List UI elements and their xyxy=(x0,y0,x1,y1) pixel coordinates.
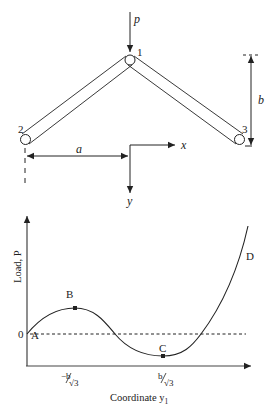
node-3 xyxy=(235,135,245,145)
x-tick-neg-denominator: √3 xyxy=(69,378,79,388)
point-c-marker xyxy=(161,354,165,358)
node-3-label: 3 xyxy=(242,123,248,135)
x-tick-pos-denominator: √3 xyxy=(164,378,174,388)
y-axis-label: y xyxy=(126,194,133,208)
node-1-label: 1 xyxy=(137,46,143,58)
x-axis-label: x xyxy=(180,138,187,152)
b-dimension-label: b xyxy=(258,93,264,107)
x-axis-title-subscript: 1 xyxy=(165,397,169,406)
load-curve xyxy=(27,226,248,356)
node-2 xyxy=(21,135,31,145)
point-d-label: D xyxy=(246,250,254,262)
point-b-label: B xyxy=(66,288,73,300)
x-tick-neg: −b √3 xyxy=(61,371,79,388)
x-axis-title-text: Coordinate y xyxy=(110,392,165,403)
load-chart: A B C D 0 Load, P −b √3 b √3 Coordinate … xyxy=(12,216,254,406)
y-axis-title: Load, P xyxy=(12,250,23,283)
point-a-label: A xyxy=(31,329,39,341)
point-c-label: C xyxy=(159,342,166,354)
x-tick-pos-numerator: b xyxy=(158,371,163,381)
x-tick-pos: b √3 xyxy=(158,371,174,388)
a-dimension-label: a xyxy=(76,142,82,156)
bar-1-3 xyxy=(128,56,243,144)
node-1 xyxy=(125,55,135,65)
point-b-marker xyxy=(73,306,77,310)
load-label: p xyxy=(133,12,140,26)
bar-1-2 xyxy=(22,56,132,144)
x-axis-title: Coordinate y1 xyxy=(110,392,169,406)
truss-diagram: p 1 2 3 b a x y xyxy=(18,12,264,208)
node-2-label: 2 xyxy=(18,123,24,135)
y-tick-zero: 0 xyxy=(18,328,24,340)
figure: p 1 2 3 b a x y xyxy=(0,0,272,419)
